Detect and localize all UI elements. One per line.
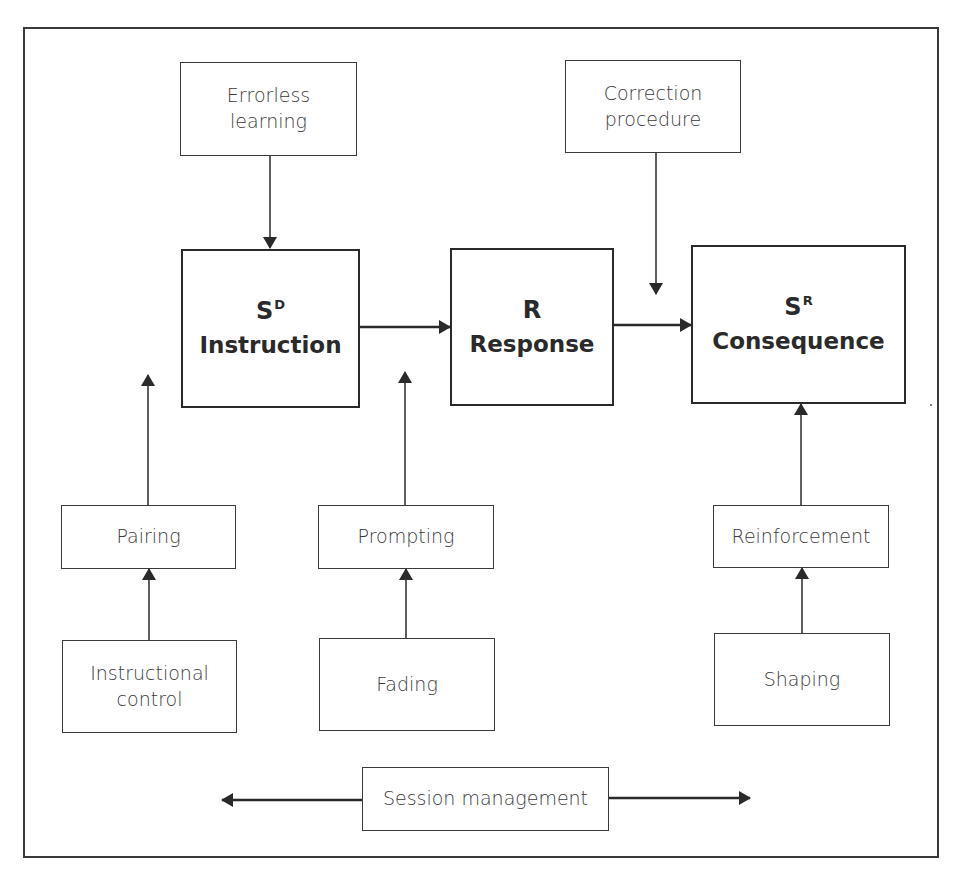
instruction-box: SD Instruction [181,249,360,408]
response-label: Response [470,328,595,361]
consequence-box: SR Consequence [691,245,906,404]
instruction-label: Instruction [199,329,341,362]
session-management-label: Session management [383,786,588,812]
instructional-control-line1: Instructional [90,661,209,687]
shaping-label: Shaping [764,667,841,693]
correction-procedure-line2: procedure [605,107,701,133]
fading-box: Fading [319,638,495,731]
sd-superscript: D [274,297,285,312]
reinforcement-box: Reinforcement [713,505,889,568]
prompting-box: Prompting [318,505,494,569]
errorless-learning-line1: Errorless [227,83,310,109]
response-box: R Response [450,248,614,406]
r-symbol: R [523,293,541,328]
pairing-box: Pairing [61,505,236,569]
sd-symbol: SD [256,294,285,329]
fading-label: Fading [376,672,438,698]
diagram-frame [23,27,939,858]
errorless-learning-box: Errorless learning [180,62,357,156]
session-management-box: Session management [362,767,609,831]
sr-superscript: R [803,293,813,308]
reinforcement-label: Reinforcement [732,524,871,550]
errorless-learning-line2: learning [230,109,307,135]
correction-procedure-box: Correction procedure [565,60,741,153]
instructional-control-line2: control [117,687,183,713]
consequence-label: Consequence [712,325,884,358]
scan-speck [930,404,932,406]
shaping-box: Shaping [714,633,890,726]
pairing-label: Pairing [116,524,180,550]
instructional-control-box: Instructional control [62,640,237,733]
sr-symbol: SR [784,290,812,325]
prompting-label: Prompting [358,524,455,550]
correction-procedure-line1: Correction [604,81,703,107]
